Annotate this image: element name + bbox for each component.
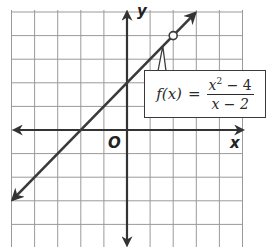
equals-sign: = [188,85,201,103]
function-name: f(x) [156,85,182,103]
graph: y x O f(x) = x2 − 4 x − 2 [0,0,272,247]
y-axis-label: y [137,2,147,20]
numerator-rest: − 4 [222,77,252,93]
x-axis-label: x [230,134,240,152]
function-callout: f(x) = x2 − 4 x − 2 [144,70,266,118]
coordinate-plane [0,0,272,247]
origin-label: O [108,134,121,152]
axes [14,12,243,245]
fraction: x2 − 4 x − 2 [207,77,254,112]
numerator: x2 − 4 [207,77,254,95]
denominator: x − 2 [211,95,248,112]
